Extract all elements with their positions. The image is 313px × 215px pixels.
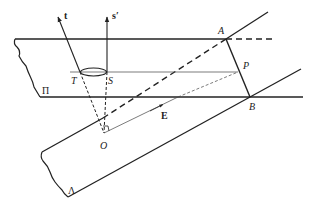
label-t: t <box>64 10 68 21</box>
lambda-upper-edge-top <box>226 12 268 39</box>
lambda-wavy-edge <box>41 152 68 197</box>
lambda-upper-edge-lower <box>42 118 103 152</box>
plane-pi <box>14 39 303 97</box>
label-a: A <box>217 25 225 36</box>
line-o-to-a-dashed <box>103 39 226 118</box>
diagram-canvas: t s′ E A B P S T O Π Λ <box>0 0 313 215</box>
pi-wavy-edge <box>14 39 40 97</box>
label-o: O <box>100 140 107 151</box>
label-s-prime: s′ <box>112 10 119 21</box>
label-pi: Π <box>42 85 49 96</box>
label-t-point: T <box>71 75 78 86</box>
vector-t <box>58 17 80 72</box>
label-e: E <box>161 110 168 121</box>
label-s: S <box>108 75 113 86</box>
line-e-dashed <box>178 72 238 97</box>
line-s-to-o-dashed <box>104 72 107 133</box>
lambda-lower-edge <box>68 69 301 197</box>
plane-lambda <box>41 12 301 197</box>
label-lambda: Λ <box>68 185 76 196</box>
label-p: P <box>242 60 249 71</box>
label-b: B <box>249 101 255 112</box>
